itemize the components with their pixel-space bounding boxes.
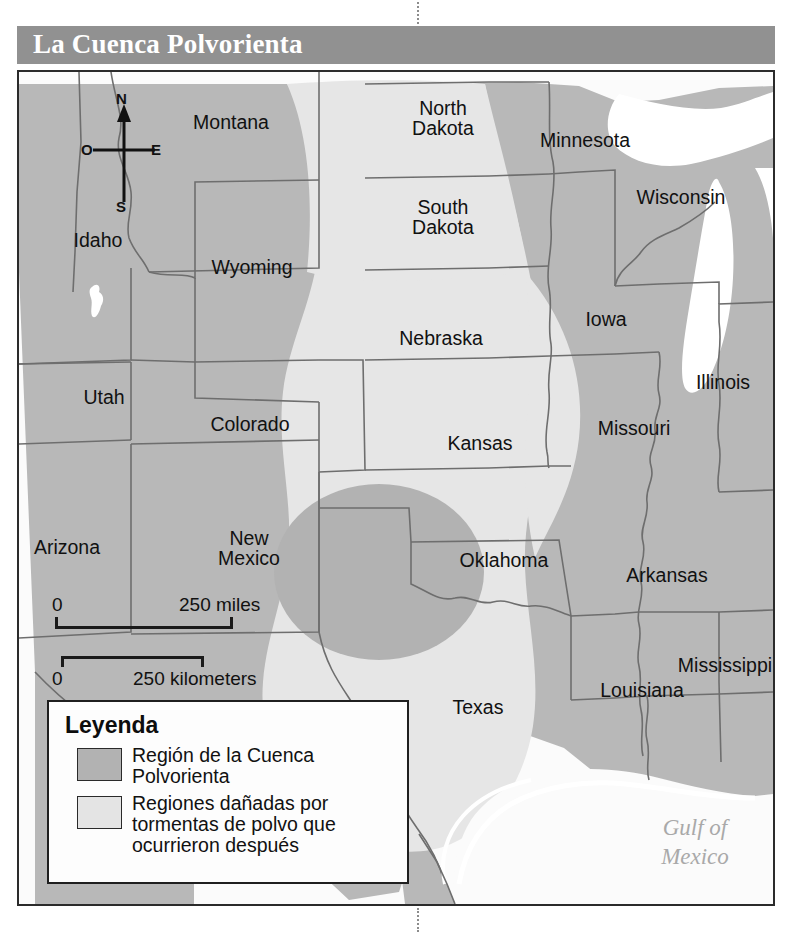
legend-item-dust-bowl-region: Región de la Cuenca Polvorienta [77, 745, 397, 787]
water-label-gulf-of-mexico: Gulf of Mexico [661, 814, 729, 872]
legend-swatch-later-dust-storms [77, 796, 122, 829]
scale-kilometers-zero: 0 [52, 668, 63, 690]
compass-label-north: N [116, 90, 127, 107]
map-title-bar: La Cuenca Polvorienta [17, 26, 775, 64]
page-gutter-marker-bottom [417, 908, 421, 932]
compass-label-west: O [81, 141, 93, 158]
legend-item-later-dust-storms: Regiones dañadas por tormentas de polvo … [77, 793, 397, 856]
scale-miles-zero: 0 [52, 594, 63, 616]
compass-label-east: E [151, 141, 161, 158]
legend-label-dust-bowl-region: Región de la Cuenca Polvorienta [132, 745, 314, 787]
compass-label-south: S [116, 198, 126, 215]
map-legend: Leyenda Región de la Cuenca Polvorienta … [47, 700, 409, 884]
legend-swatch-dust-bowl-region [77, 748, 122, 781]
legend-title: Leyenda [65, 712, 397, 739]
legend-label-later-dust-storms: Regiones dañadas por tormentas de polvo … [132, 793, 336, 856]
map-canvas[interactable]: Montana North Dakota Minnesota Wisconsin… [17, 70, 775, 906]
scale-kilometers-label: 250 kilometers [133, 668, 257, 690]
region-later-dust-storms-north [287, 80, 527, 281]
page-title: La Cuenca Polvorienta [33, 29, 303, 60]
scale-bar-miles [55, 626, 233, 638]
scale-bar-kilometers [61, 656, 204, 668]
scale-miles-label: 250 miles [179, 594, 260, 616]
page-gutter-marker-top [417, 2, 421, 24]
compass-rose: N S O E [81, 90, 167, 220]
map-scale: 0 250 miles 0 250 kilometers [39, 594, 309, 686]
